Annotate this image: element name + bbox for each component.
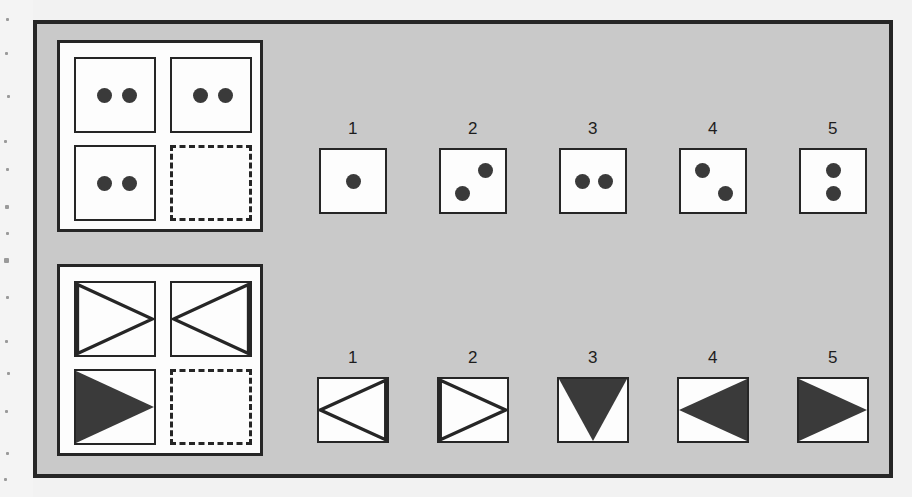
dot-glyph — [598, 174, 613, 189]
triangle-right-outline-icon — [76, 283, 154, 355]
matrix-cell-top-right — [170, 281, 252, 357]
dot-glyph — [718, 186, 733, 201]
dot-glyph — [695, 163, 710, 178]
problem-panel-triangles — [57, 264, 263, 456]
triangle-down-solid-icon — [559, 379, 627, 441]
option-dots-1[interactable]: 1 — [293, 120, 413, 214]
dot-glyph — [122, 88, 137, 103]
option-number-label: 4 — [708, 120, 718, 137]
option-box[interactable] — [439, 148, 507, 214]
dot-glyph — [455, 186, 470, 201]
matrix-triangles — [74, 281, 252, 445]
option-number-label: 5 — [828, 120, 838, 137]
option-box[interactable] — [317, 377, 389, 443]
matrix-dots — [74, 57, 252, 221]
dot-glyph — [346, 174, 361, 189]
option-box[interactable] — [679, 148, 747, 214]
option-number-label: 3 — [588, 120, 598, 137]
option-triangles-1[interactable]: 1 — [293, 349, 413, 443]
matrix-cell-bottom-left — [74, 145, 156, 221]
option-triangles-5[interactable]: 5 — [773, 349, 893, 443]
triangle-right-solid-icon — [76, 371, 154, 443]
triangle-right-outline-icon — [439, 379, 507, 441]
dot-glyph — [193, 88, 208, 103]
option-number-label: 1 — [348, 349, 358, 366]
dot-glyph — [97, 176, 112, 191]
option-row-triangles: 1 2 3 4 — [293, 349, 893, 443]
option-box[interactable] — [319, 148, 387, 214]
option-triangles-3[interactable]: 3 — [533, 349, 653, 443]
option-number-label: 2 — [468, 120, 478, 137]
dot-glyph — [478, 163, 493, 178]
option-box[interactable] — [677, 377, 749, 443]
option-number-label: 2 — [468, 349, 478, 366]
option-box[interactable] — [437, 377, 509, 443]
option-box[interactable] — [559, 148, 627, 214]
matrix-cell-top-left — [74, 281, 156, 357]
option-number-label: 4 — [708, 349, 718, 366]
dot-glyph — [218, 88, 233, 103]
dot-glyph — [826, 186, 841, 201]
matrix-cell-top-left — [74, 57, 156, 133]
triangle-left-solid-icon — [679, 379, 747, 441]
dot-glyph — [122, 176, 137, 191]
option-box[interactable] — [557, 377, 629, 443]
option-box[interactable] — [799, 148, 867, 214]
option-number-label: 1 — [348, 120, 358, 137]
option-number-label: 3 — [588, 349, 598, 366]
matrix-cell-bottom-left — [74, 369, 156, 445]
triangle-left-outline-icon — [319, 379, 387, 441]
option-row-dots: 1 2 3 4 5 — [293, 120, 893, 214]
matrix-cell-missing-slot — [170, 145, 252, 221]
matrix-cell-missing-slot — [170, 369, 252, 445]
dot-glyph — [575, 174, 590, 189]
problem-panel-dots — [57, 40, 263, 232]
option-number-label: 5 — [828, 349, 838, 366]
option-dots-5[interactable]: 5 — [773, 120, 893, 214]
triangle-right-solid-icon — [799, 379, 867, 441]
triangle-left-outline-icon — [172, 283, 250, 355]
option-triangles-4[interactable]: 4 — [653, 349, 773, 443]
dot-glyph — [826, 163, 841, 178]
option-dots-2[interactable]: 2 — [413, 120, 533, 214]
scan-edge-artifact — [0, 0, 33, 497]
option-triangles-2[interactable]: 2 — [413, 349, 533, 443]
option-box[interactable] — [797, 377, 869, 443]
dot-glyph — [97, 88, 112, 103]
option-dots-4[interactable]: 4 — [653, 120, 773, 214]
test-card: 1 2 3 4 5 — [33, 20, 893, 478]
option-dots-3[interactable]: 3 — [533, 120, 653, 214]
matrix-cell-top-right — [170, 57, 252, 133]
